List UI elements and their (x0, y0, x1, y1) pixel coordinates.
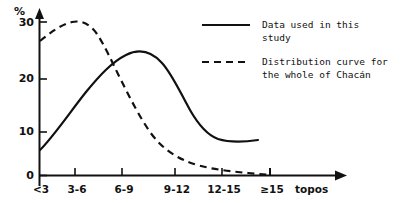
series-line-dashed (40, 22, 270, 176)
y-tick-label-10: 10 (12, 126, 34, 137)
y-tick-label-0: 0 (12, 170, 34, 181)
x-tick-label-3-6: 3-6 (68, 184, 87, 195)
y-tick-label-20: 20 (12, 73, 34, 84)
x-tick-label-lt3: <3 (33, 184, 49, 195)
x-axis-unit-label: topos (295, 184, 328, 195)
x-tick-label-12-15: 12-15 (207, 184, 241, 195)
x-tick-label-9-12: 9-12 (164, 184, 190, 195)
legend-label-distribution-curve-chacan: Distribution curve for the whole of Chac… (262, 56, 388, 81)
y-axis (35, 8, 44, 186)
legend-label-data-used-in-this-study: Data used in this study (262, 19, 359, 44)
y-axis-ticks (40, 22, 48, 176)
x-axis (40, 171, 348, 181)
x-tick-label-gte15: ≥15 (260, 184, 283, 195)
x-tick-label-6-9: 6-9 (115, 184, 134, 195)
distribution-chart-figure: % 30 20 10 0 <3 3-6 6-9 9-12 12-15 ≥15 t… (0, 0, 412, 203)
series-line-solid (40, 52, 258, 150)
y-tick-label-30: 30 (12, 17, 34, 28)
